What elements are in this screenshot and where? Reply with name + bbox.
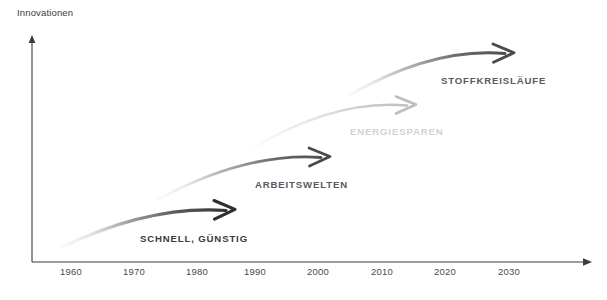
chart-canvas: Innovationen 1960 1970 1980 1990 2000 20… (0, 0, 607, 300)
x-tick-label-2030: 2030 (498, 266, 520, 277)
wave-label-energiesparen: ENERGIESPAREN (350, 126, 444, 137)
y-axis-title: Innovationen (17, 7, 73, 18)
x-axis-arrow-icon (583, 258, 592, 265)
chart-graphic (0, 0, 607, 300)
y-axis (29, 35, 36, 262)
wave-label-arbeitswelten: ARBEITSWELTEN (255, 179, 348, 190)
x-tick-label-1960: 1960 (60, 266, 82, 277)
wave-label-stoffkreislaeufe: STOFFKREISLÄUFE (441, 75, 546, 86)
wave-curve-energiesparen (253, 97, 416, 149)
x-tick-label-2000: 2000 (307, 266, 329, 277)
x-tick-label-1990: 1990 (244, 266, 266, 277)
x-tick-label-1980: 1980 (186, 266, 208, 277)
x-tick-label-2020: 2020 (434, 266, 456, 277)
x-tick-label-1970: 1970 (123, 266, 145, 277)
y-axis-arrow-icon (29, 35, 36, 43)
x-tick-label-2010: 2010 (371, 266, 393, 277)
wave-curve-arbeitswelten (157, 148, 330, 200)
wave-label-schnell-guenstig: SCHNELL, GÜNSTIG (140, 233, 248, 244)
wave-curve-stoffkreislaeufe (348, 44, 514, 96)
x-axis (32, 258, 592, 265)
